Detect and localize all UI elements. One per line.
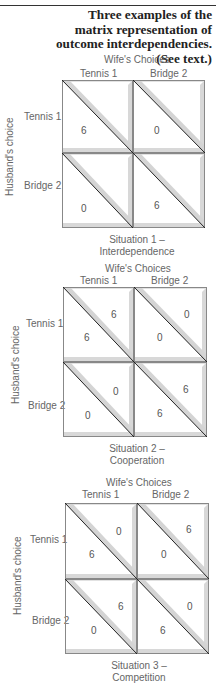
col-header-tennis: Tennis 1 (80, 275, 117, 286)
situation-title-line2: Competition (79, 672, 199, 684)
husband-payoff: 0 (85, 410, 91, 421)
cell-diagonal-icon (63, 287, 134, 362)
cell-diagonal-icon (137, 579, 209, 654)
wife-payoff: 0 (116, 526, 122, 537)
col-header-bridge: Bridge 2 (150, 68, 187, 79)
cell-diagonal-icon (134, 362, 207, 437)
col-header-bridge: Bridge 2 (152, 489, 189, 500)
payoff-matrix: 0 6 6 0 6 0 0 6 (65, 503, 209, 654)
wife-payoff: 0 (184, 309, 190, 320)
husband-payoff: 6 (160, 625, 166, 636)
row-header-bridge: Bridge 2 (24, 180, 61, 191)
col-header-tennis: Tennis 1 (82, 489, 119, 500)
top-rule (0, 5, 216, 6)
husband-choice-label: Husband's choice (12, 536, 23, 615)
cell-diagonal-icon (62, 80, 133, 153)
wife-payoff: 6 (111, 309, 117, 320)
row-header-tennis: Tennis 1 (26, 318, 63, 329)
cell-diagonal-icon (65, 579, 137, 654)
col-header-tennis: Tennis 1 (80, 68, 117, 79)
wife-payoff: 6 (186, 524, 192, 535)
cell-bridge-tennis (65, 579, 137, 654)
cell-diagonal-icon (133, 80, 205, 153)
row-header-bridge: Bridge 2 (28, 400, 65, 411)
wife-payoff: 6 (118, 601, 124, 612)
cell-diagonal-icon (133, 153, 205, 228)
payoff-matrix: 6 0 0 6 (62, 80, 205, 228)
situation-title-line2: Cooperation (77, 455, 197, 467)
row-header-tennis: Tennis 1 (24, 111, 61, 122)
situation-title: Situation 3 – Competition (79, 660, 199, 684)
cell-bridge-bridge (133, 153, 205, 228)
husband-payoff: 6 (154, 200, 160, 211)
husband-payoff: 6 (157, 408, 163, 419)
husband-choice-label: Husband's choice (4, 117, 15, 196)
husband-payoff: 6 (81, 125, 87, 136)
husband-payoff: 0 (81, 203, 87, 214)
wife-choices-label: Wife's Choices (104, 54, 170, 65)
cell-bridge-bridge (134, 362, 207, 437)
wife-payoff: 0 (187, 601, 193, 612)
husband-payoff: 0 (161, 549, 167, 560)
husband-payoff: 0 (91, 625, 97, 636)
cell-diagonal-icon (63, 362, 134, 437)
cell-tennis-bridge (133, 80, 205, 153)
cell-bridge-tennis (63, 362, 134, 437)
cell-tennis-bridge (134, 287, 207, 362)
col-header-bridge: Bridge 2 (151, 275, 188, 286)
situation-title: Situation 2 – Cooperation (77, 443, 197, 467)
husband-payoff: 6 (84, 332, 90, 343)
situation-title: Situation 1 – Interdependence (77, 234, 197, 258)
situation-title-line1: Situation 1 – (77, 234, 197, 246)
cell-bridge-tennis (62, 153, 133, 228)
payoff-matrix: 6 6 0 0 0 0 6 6 (63, 287, 207, 437)
situation-title-line1: Situation 3 – (79, 660, 199, 672)
cell-tennis-bridge (137, 503, 209, 579)
cell-bridge-bridge (137, 579, 209, 654)
cell-diagonal-icon (137, 503, 209, 579)
cell-diagonal-icon (62, 153, 133, 228)
husband-payoff: 6 (89, 549, 95, 560)
situation-title-line2: Interdependence (77, 246, 197, 258)
husband-payoff: 0 (157, 332, 163, 343)
wife-payoff: 6 (183, 384, 189, 395)
cell-tennis-tennis (62, 80, 133, 153)
situation-title-line1: Situation 2 – (77, 443, 197, 455)
husband-choice-label: Husband's choice (10, 325, 21, 404)
wife-payoff: 0 (113, 386, 119, 397)
wife-choices-label: Wife's Choices (105, 263, 171, 274)
cell-tennis-tennis (63, 287, 134, 362)
row-header-bridge: Bridge 2 (32, 615, 69, 626)
row-header-tennis: Tennis 1 (30, 534, 67, 545)
cell-tennis-tennis (65, 503, 137, 579)
wife-choices-label: Wife's Choices (106, 477, 172, 488)
cell-diagonal-icon (65, 503, 137, 579)
husband-payoff: 0 (154, 125, 160, 136)
cell-diagonal-icon (134, 287, 207, 362)
